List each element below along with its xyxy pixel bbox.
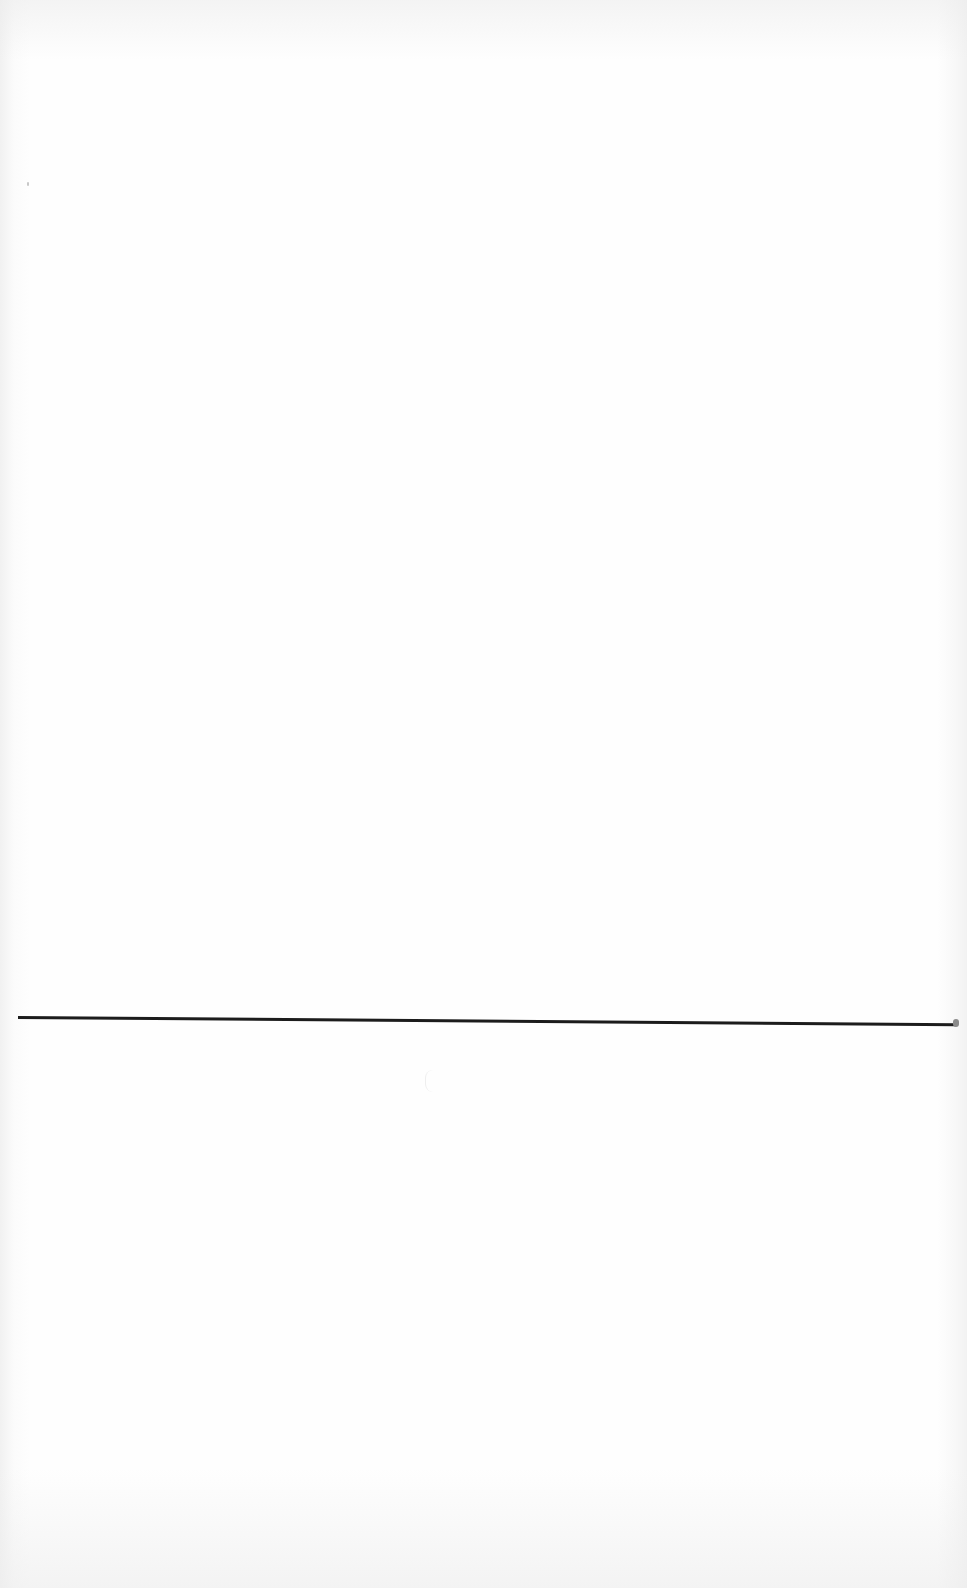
scan-shadow-top xyxy=(0,0,967,60)
horizontal-rule xyxy=(18,1016,956,1026)
bleed-through-mark xyxy=(425,1070,436,1092)
scan-shadow-bottom xyxy=(0,1468,967,1588)
scan-speck xyxy=(27,182,29,186)
rule-end-mark xyxy=(953,1019,959,1027)
scanned-page xyxy=(0,0,967,1588)
